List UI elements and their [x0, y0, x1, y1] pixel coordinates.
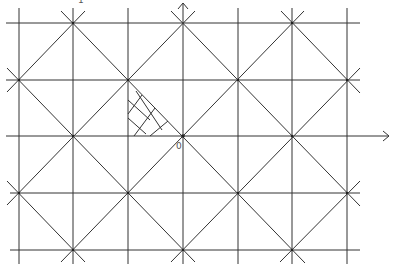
axes [6, 3, 389, 264]
top-label: 1 [78, 0, 84, 5]
origin-point [181, 134, 185, 138]
hatched-triangle [128, 91, 168, 136]
diagonal-line [7, 11, 195, 205]
diagonal-line [7, 68, 195, 262]
origin-label: 0 [176, 141, 182, 151]
diagonal-line [171, 68, 360, 262]
diagonal-line [171, 11, 360, 206]
lattice-diagram [0, 0, 393, 271]
